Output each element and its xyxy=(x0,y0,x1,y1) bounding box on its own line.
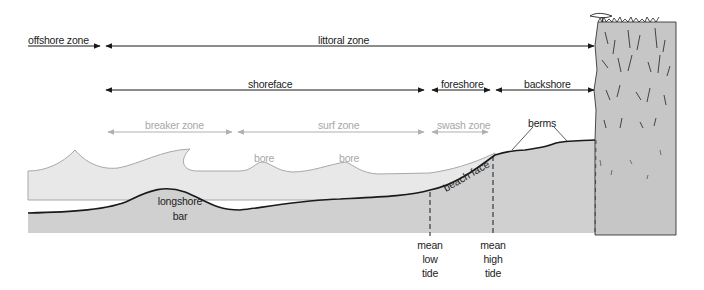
cliff xyxy=(594,22,676,235)
offshore-zone-label: offshore zone xyxy=(28,34,89,46)
mean-low-tide-label: mean low tide xyxy=(414,238,446,280)
berms-label: berms xyxy=(528,117,556,129)
mean-high-tide-label: mean high tide xyxy=(477,238,509,280)
foreshore-label: foreshore xyxy=(441,78,484,90)
littoral-zone-label: littoral zone xyxy=(318,34,369,46)
backshore-label: backshore xyxy=(524,78,571,90)
breaker-zone-label: breaker zone xyxy=(145,119,204,131)
bore-label-2: bore xyxy=(339,152,359,164)
surf-zone-label: surf zone xyxy=(318,119,359,131)
swash-zone-label: swash zone xyxy=(437,119,490,131)
bore-label-1: bore xyxy=(254,152,274,164)
shoreface-label: shoreface xyxy=(248,78,292,90)
longshore-bar-label: longshore bar xyxy=(152,194,208,224)
